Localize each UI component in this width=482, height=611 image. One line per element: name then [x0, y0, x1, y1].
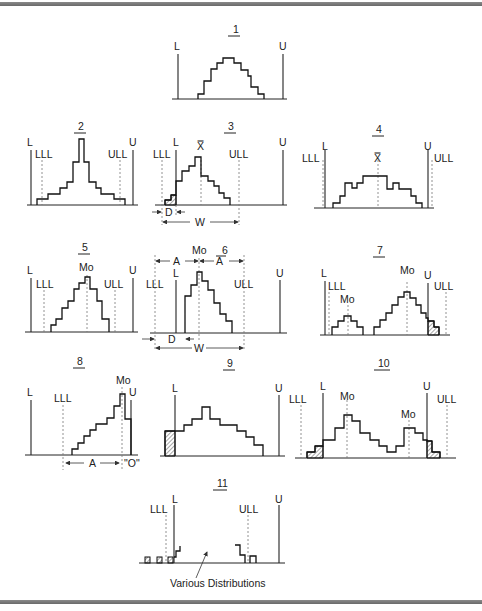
- svg-text:U: U: [129, 136, 137, 148]
- svg-text:ULL: ULL: [234, 278, 253, 290]
- svg-text:X̿: X̿: [373, 152, 381, 164]
- svg-text:U: U: [129, 386, 137, 398]
- panel-8: 8 L LLL Mo U A "O": [25, 355, 140, 470]
- svg-text:L: L: [27, 264, 33, 276]
- svg-text:8: 8: [77, 355, 83, 367]
- out-of-spec-hatch: [165, 431, 175, 456]
- histogram-1: [198, 58, 264, 99]
- svg-text:U: U: [424, 269, 432, 281]
- panel-4: 4 LLL L X̿ U ULL: [302, 123, 453, 208]
- svg-text:L: L: [321, 267, 327, 279]
- panel-10: 10 LLL L Mo Mo U ULL: [289, 357, 456, 458]
- svg-text:ULL: ULL: [434, 280, 453, 292]
- svg-text:ULL: ULL: [239, 503, 258, 515]
- svg-text:LLL: LLL: [153, 148, 171, 160]
- svg-text:3: 3: [228, 120, 234, 132]
- svg-text:L: L: [27, 136, 33, 148]
- svg-text:A: A: [173, 255, 180, 267]
- svg-text:U: U: [275, 382, 283, 394]
- svg-text:L: L: [172, 382, 178, 394]
- svg-text:D: D: [168, 333, 176, 345]
- outlier-bar: [157, 557, 162, 563]
- out-of-spec-hatch-right: [427, 441, 440, 458]
- histogram-6: [185, 272, 232, 333]
- svg-text:D: D: [165, 206, 173, 218]
- svg-text:U: U: [423, 380, 431, 392]
- svg-text:5: 5: [82, 241, 88, 253]
- histogram-9: [165, 407, 263, 456]
- svg-text:X̿: X̿: [196, 140, 204, 152]
- svg-text:L: L: [320, 380, 326, 392]
- histogram-7a: [332, 316, 363, 335]
- svg-text:2: 2: [78, 120, 84, 132]
- svg-text:U: U: [279, 136, 287, 148]
- svg-text:ULL: ULL: [229, 148, 248, 160]
- svg-text:Mo: Mo: [79, 261, 94, 273]
- svg-text:7: 7: [377, 244, 383, 256]
- panel-6: 6 Mo LLL L ULL U A A D W: [142, 244, 287, 354]
- svg-text:11: 11: [217, 477, 228, 489]
- svg-text:U: U: [424, 140, 432, 152]
- panel-7: 7 L LLL Mo Mo U ULL: [320, 244, 453, 335]
- svg-text:Mo: Mo: [340, 390, 355, 402]
- svg-text:ULL: ULL: [108, 148, 127, 160]
- svg-text:LLL: LLL: [35, 148, 53, 160]
- panel-11: 11 LLL L ULL U Various Distributions: [139, 477, 285, 589]
- svg-text:LLL: LLL: [150, 503, 168, 515]
- svg-text:L: L: [172, 493, 178, 505]
- svg-text:LLL: LLL: [54, 392, 72, 404]
- svg-text:L: L: [173, 267, 179, 279]
- svg-text:U: U: [275, 493, 283, 505]
- svg-text:W: W: [195, 216, 205, 228]
- svg-text:LLL: LLL: [302, 152, 320, 164]
- panel-5: 5 L LLL Mo ULL U: [25, 241, 138, 332]
- svg-text:LLL: LLL: [328, 280, 346, 292]
- svg-text:L: L: [174, 40, 180, 52]
- svg-text:L: L: [27, 386, 33, 398]
- svg-text:L: L: [322, 140, 328, 152]
- svg-text:Mo: Mo: [401, 408, 416, 420]
- panel-9: 9 L U: [160, 357, 285, 456]
- histogram-4: [333, 176, 422, 208]
- svg-text:A: A: [89, 457, 96, 469]
- svg-text:ULL: ULL: [104, 278, 123, 290]
- svg-text:"O": "O": [124, 457, 140, 469]
- svg-text:L: L: [173, 136, 179, 148]
- svg-text:ULL: ULL: [434, 152, 453, 164]
- histogram-10: [307, 415, 440, 458]
- svg-text:Mo: Mo: [116, 374, 131, 386]
- svg-text:10: 10: [378, 357, 390, 369]
- svg-text:9: 9: [227, 357, 233, 369]
- outlier-bar: [145, 557, 150, 563]
- svg-text:U: U: [276, 267, 284, 279]
- panel-3: 3 LLL L X̿ ULL U D W: [152, 120, 287, 228]
- distributions-figure: 1 L U 2 L LLL ULL U 3 LLL L X̿ ULL: [0, 0, 482, 611]
- svg-text:Mo: Mo: [340, 293, 355, 305]
- svg-text:4: 4: [376, 123, 382, 135]
- histogram-5: [51, 277, 109, 332]
- panel-2: 2 L LLL ULL U: [27, 120, 138, 205]
- svg-text:U: U: [129, 264, 137, 276]
- panel-1-number: 1: [233, 23, 239, 35]
- svg-text:LLL: LLL: [146, 278, 164, 290]
- svg-text:Mo: Mo: [400, 264, 415, 276]
- svg-text:ULL: ULL: [437, 393, 456, 405]
- panel-1: 1 L U: [172, 23, 287, 99]
- svg-text:Mo: Mo: [192, 244, 207, 256]
- figure-caption: Various Distributions: [170, 577, 266, 589]
- svg-text:LLL: LLL: [36, 278, 54, 290]
- svg-text:W: W: [194, 342, 204, 354]
- outlier-bar: [168, 557, 173, 563]
- svg-text:U: U: [279, 40, 287, 52]
- svg-text:LLL: LLL: [289, 393, 307, 405]
- svg-text:A: A: [216, 255, 223, 267]
